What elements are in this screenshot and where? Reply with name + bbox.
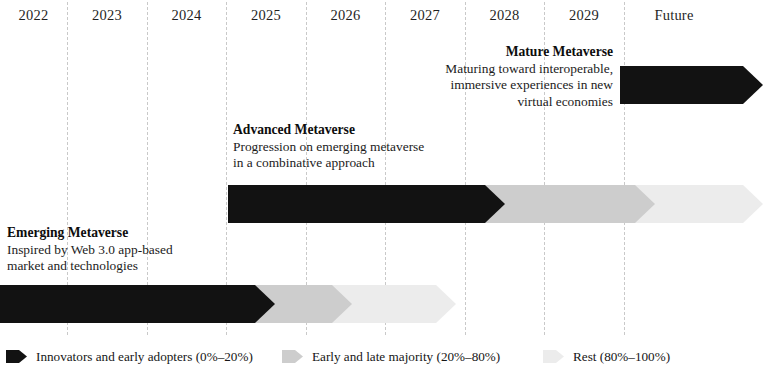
mature-metaverse-title: Mature Metaverse [360,44,613,61]
gridline-2029-future [624,2,625,335]
emerging-metaverse-title: Emerging Metaverse [7,225,307,242]
advanced-metaverse-bar [228,185,763,223]
emerging-metaverse-segment-innovators [0,285,275,323]
advanced-metaverse-desc-line-2: in a combinative approach [233,155,553,172]
mature-metaverse-desc-line-1: Maturing toward interoperable, [360,61,613,78]
legend-item-innovators: Innovators and early adopters (0%–20%) [6,344,253,369]
legend-label-majority: Early and late majority (20%–80%) [312,349,500,364]
mature-metaverse-text-block: Mature Metaverse Maturing toward interop… [360,44,613,110]
legend-swatch-majority-icon [282,350,303,363]
year-label-2026: 2026 [306,5,385,25]
mature-metaverse-desc-line-3: virtual economies [360,94,613,111]
legend: Innovators and early adopters (0%–20%) E… [0,344,763,369]
mature-metaverse-bar [620,66,763,104]
advanced-metaverse-title: Advanced Metaverse [233,122,553,139]
legend-item-majority: Early and late majority (20%–80%) [282,344,500,369]
year-label-2028: 2028 [465,5,544,25]
legend-label-innovators: Innovators and early adopters (0%–20%) [36,349,253,364]
legend-swatch-rest-icon [543,350,564,363]
metaverse-timeline-diagram: 2022 2023 2024 2025 2026 2027 2028 2029 … [0,0,763,369]
emerging-metaverse-desc-line-1: Inspired by Web 3.0 app-based [7,242,307,259]
legend-swatch-innovators-icon [6,350,27,363]
emerging-metaverse-text-block: Emerging Metaverse Inspired by Web 3.0 a… [7,225,307,275]
year-label-future: Future [624,5,724,25]
year-label-2023: 2023 [67,5,147,25]
mature-metaverse-segment-innovators [620,66,763,104]
legend-item-rest: Rest (80%–100%) [543,344,670,369]
advanced-metaverse-desc-line-1: Progression on emerging metaverse [233,139,553,156]
advanced-metaverse-text-block: Advanced Metaverse Progression on emergi… [233,122,553,172]
advanced-metaverse-segment-innovators [228,185,505,223]
year-label-2029: 2029 [544,5,624,25]
year-axis: 2022 2023 2024 2025 2026 2027 2028 2029 … [0,0,763,30]
year-label-2022: 2022 [0,5,67,25]
emerging-metaverse-bar [0,285,456,323]
year-label-2024: 2024 [147,5,226,25]
emerging-metaverse-desc-line-2: market and technologies [7,258,307,275]
year-label-2025: 2025 [226,5,306,25]
year-label-2027: 2027 [385,5,465,25]
legend-label-rest: Rest (80%–100%) [573,349,670,364]
mature-metaverse-desc-line-2: immersive experiences in new [360,77,613,94]
